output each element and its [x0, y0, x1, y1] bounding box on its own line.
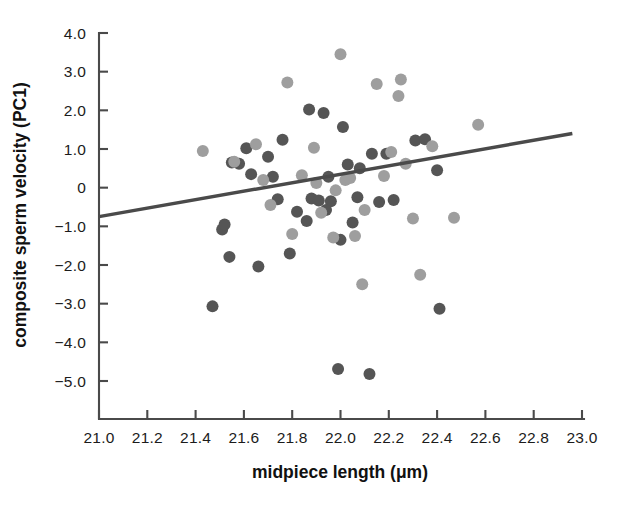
data-point — [301, 215, 313, 227]
data-point — [332, 363, 344, 375]
x-tick-label: 21.4 — [180, 429, 211, 446]
data-point — [373, 196, 385, 208]
data-point — [281, 76, 293, 88]
data-point — [303, 104, 315, 116]
data-point — [359, 204, 371, 216]
x-tick-label: 21.0 — [84, 429, 115, 446]
data-point — [318, 107, 330, 119]
data-point — [228, 156, 240, 168]
x-tick-label: 22.4 — [422, 429, 453, 446]
data-point — [431, 164, 443, 176]
data-point — [207, 300, 219, 312]
data-point — [291, 206, 303, 218]
x-tick-label: 21.8 — [277, 429, 308, 446]
data-point — [392, 90, 404, 102]
data-point — [330, 184, 342, 196]
data-point — [414, 269, 426, 281]
data-point — [277, 134, 289, 146]
data-point — [342, 158, 354, 170]
data-point — [426, 140, 438, 152]
y-tick-label: 4.0 — [64, 25, 86, 42]
data-point — [252, 261, 264, 273]
data-point — [219, 218, 231, 230]
data-point — [371, 78, 383, 90]
x-axis-title: midpiece length (μm) — [252, 462, 428, 482]
data-point — [349, 230, 361, 242]
y-tick-label: 1.0 — [64, 141, 86, 158]
scatter-plot-figure: 21.021.221.421.621.822.022.222.422.622.8… — [0, 0, 617, 508]
x-tick-label: 21.2 — [132, 429, 163, 446]
data-point — [308, 142, 320, 154]
data-point — [395, 73, 407, 85]
data-points — [197, 48, 484, 380]
x-tick-label: 22.0 — [325, 429, 356, 446]
axis-spines — [99, 33, 584, 419]
data-point — [284, 247, 296, 259]
axes — [99, 33, 584, 419]
chart-canvas: 21.021.221.421.621.822.022.222.422.622.8… — [0, 0, 617, 508]
data-point — [264, 199, 276, 211]
data-point — [434, 303, 446, 315]
x-tick-label: 21.6 — [228, 429, 259, 446]
data-point — [337, 121, 349, 133]
x-tick-label: 22.6 — [470, 429, 501, 446]
data-point — [407, 213, 419, 225]
x-tick-label: 22.2 — [373, 429, 404, 446]
y-tick-label: 0 — [77, 179, 86, 196]
data-point — [315, 207, 327, 219]
y-tick-label: −4.0 — [55, 334, 87, 351]
data-point — [448, 212, 460, 224]
y-tick-label: −3.0 — [55, 295, 87, 312]
data-point — [385, 146, 397, 158]
data-point — [335, 48, 347, 60]
data-point — [356, 278, 368, 290]
data-point — [472, 119, 484, 131]
data-point — [378, 170, 390, 182]
data-point — [257, 174, 269, 186]
data-point — [363, 368, 375, 380]
data-point — [366, 148, 378, 160]
tick-marks — [99, 33, 582, 419]
data-point — [327, 232, 339, 244]
data-point — [351, 191, 363, 203]
y-tick-label: 3.0 — [64, 63, 86, 80]
data-point — [286, 228, 298, 240]
data-point — [250, 138, 262, 150]
y-axis-title: composite sperm velocity (PC1) — [10, 82, 30, 348]
data-point — [223, 251, 235, 263]
y-tick-label: −2.0 — [55, 257, 87, 274]
data-point — [347, 216, 359, 228]
data-point — [245, 168, 257, 180]
data-point — [197, 145, 209, 157]
y-tick-labels: 4.03.02.01.00−1.0−2.0−3.0−4.0−5.0 — [55, 25, 87, 390]
x-tick-labels: 21.021.221.421.621.822.022.222.422.622.8… — [84, 429, 598, 446]
x-tick-label: 22.8 — [518, 429, 549, 446]
y-tick-label: −5.0 — [55, 373, 87, 390]
data-point — [388, 194, 400, 206]
y-tick-label: −1.0 — [55, 218, 87, 235]
y-tick-label: 2.0 — [64, 102, 86, 119]
data-point — [262, 151, 274, 163]
x-tick-label: 23.0 — [567, 429, 598, 446]
data-point — [313, 194, 325, 206]
